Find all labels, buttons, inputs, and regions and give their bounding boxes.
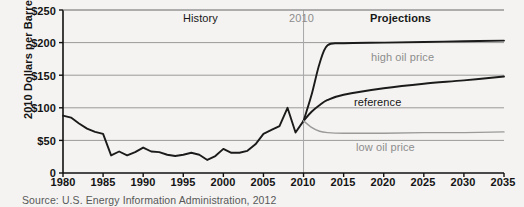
low-oil-price-label: low oil price [356,141,415,153]
oil-price-chart: 2010 Dollars per Barrel $250 $200 $150 $… [0,0,524,207]
axis-ticks [59,10,504,177]
divider-year-label: 2010 [289,12,314,24]
series-lines [63,41,504,160]
gridlines [63,10,504,140]
plot-canvas [0,0,524,207]
source-note: Source: U.S. Energy Information Administ… [22,194,276,206]
projections-label: Projections [370,12,431,24]
history-label: History [183,12,218,24]
axis-lines [63,10,504,173]
high-oil-price-label: high oil price [371,51,434,63]
reference-label: reference [354,96,401,108]
